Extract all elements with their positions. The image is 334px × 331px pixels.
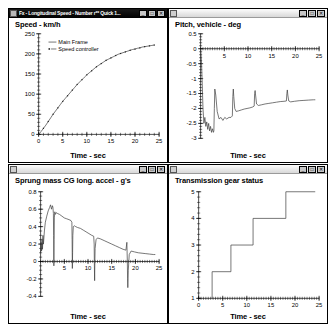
maximize-button[interactable]: □ xyxy=(308,10,316,17)
svg-text:2: 2 xyxy=(191,269,194,275)
svg-text:15: 15 xyxy=(268,53,275,59)
pitch-window-buttons: _ □ ✕ xyxy=(299,10,326,17)
svg-text:15: 15 xyxy=(268,302,275,308)
maximize-button[interactable]: □ xyxy=(148,10,156,17)
svg-text:0.6: 0.6 xyxy=(28,206,37,212)
svg-text:-2: -2 xyxy=(191,105,196,111)
svg-text:0: 0 xyxy=(37,138,41,144)
svg-text:0.5: 0.5 xyxy=(188,31,197,37)
svg-text:200: 200 xyxy=(25,51,36,57)
svg-text:25: 25 xyxy=(156,138,163,144)
accel-window-buttons: _ □ ✕ xyxy=(139,166,166,173)
svg-text:-0.5: -0.5 xyxy=(186,61,197,67)
svg-text:4: 4 xyxy=(191,215,195,221)
svg-text:-1.5: -1.5 xyxy=(186,90,197,96)
svg-text:25: 25 xyxy=(156,265,163,271)
svg-text:-0.2: -0.2 xyxy=(26,276,36,282)
svg-text:5: 5 xyxy=(61,138,65,144)
svg-text:5: 5 xyxy=(223,53,227,59)
svg-text:15: 15 xyxy=(108,138,115,144)
close-button[interactable]: ✕ xyxy=(157,166,165,173)
speed-window[interactable]: Fx - Longitudinal Speed - Number r** Qui… xyxy=(8,8,168,163)
speed-plot: 0510152025050100150200250Main FrameSpeed… xyxy=(9,18,167,162)
document-icon xyxy=(170,166,177,173)
accel-window-titlebar[interactable]: _ □ ✕ xyxy=(9,165,167,174)
minimize-button[interactable]: _ xyxy=(299,166,307,173)
svg-text:150: 150 xyxy=(25,71,36,77)
pitch-xlabel: Time - sec xyxy=(169,151,327,160)
gear-window-buttons: _ □ ✕ xyxy=(299,166,326,173)
svg-text:10: 10 xyxy=(85,265,92,271)
svg-text:-2.5: -2.5 xyxy=(186,120,197,126)
svg-text:Speed controller: Speed controller xyxy=(58,46,98,52)
svg-text:100: 100 xyxy=(25,91,36,97)
svg-text:1: 1 xyxy=(191,295,194,301)
svg-text:20: 20 xyxy=(132,138,139,144)
close-button[interactable]: ✕ xyxy=(317,10,325,17)
svg-text:250: 250 xyxy=(25,31,36,37)
svg-text:10: 10 xyxy=(84,138,91,144)
maximize-button[interactable]: □ xyxy=(308,166,316,173)
svg-text:-0.4: -0.4 xyxy=(26,293,37,299)
svg-text:10: 10 xyxy=(244,302,251,308)
svg-text:5: 5 xyxy=(221,302,225,308)
speed-window-buttons: _ □ ✕ xyxy=(139,10,166,17)
speed-xlabel: Time - sec xyxy=(9,151,167,160)
svg-text:0: 0 xyxy=(197,302,201,308)
gear-chart-body: Transmission gear status 051015202512345… xyxy=(169,174,327,323)
svg-text:3: 3 xyxy=(191,242,195,248)
svg-text:20: 20 xyxy=(292,302,299,308)
svg-text:50: 50 xyxy=(28,111,35,117)
svg-text:0: 0 xyxy=(193,46,197,52)
minimize-button[interactable]: _ xyxy=(139,166,147,173)
svg-text:25: 25 xyxy=(316,302,323,308)
close-button[interactable]: ✕ xyxy=(157,10,165,17)
pitch-chart-body: Pitch, vehicle - deg 5101520250.50-0.5-1… xyxy=(169,18,327,162)
accel-xlabel: Time - sec xyxy=(9,312,167,321)
document-icon xyxy=(170,10,177,17)
svg-text:Main Frame: Main Frame xyxy=(58,39,87,45)
svg-text:10: 10 xyxy=(245,53,252,59)
minimize-button[interactable]: _ xyxy=(299,10,307,17)
svg-text:20: 20 xyxy=(132,265,139,271)
svg-text:5: 5 xyxy=(191,189,195,195)
svg-text:0.8: 0.8 xyxy=(28,189,37,195)
accel-window[interactable]: _ □ ✕ Sprung mass CG long. accel - g's 5… xyxy=(8,164,168,324)
gear-window[interactable]: _ □ ✕ Transmission gear status 051015202… xyxy=(168,164,328,324)
gear-plot: 051015202512345 xyxy=(169,174,327,323)
pitch-plot: 5101520250.50-0.5-1-1.5-2-2.5-3 xyxy=(169,18,327,162)
svg-text:25: 25 xyxy=(316,53,323,59)
accel-plot: 5101520250.80.60.40.20-0.2-0.4 xyxy=(9,174,167,323)
accel-chart-body: Sprung mass CG long. accel - g's 5101520… xyxy=(9,174,167,323)
svg-text:0: 0 xyxy=(33,258,37,264)
speed-window-title: Fx - Longitudinal Speed - Number r** Qui… xyxy=(19,10,139,17)
gear-xlabel: Time - sec xyxy=(169,312,327,321)
desktop: Fx - Longitudinal Speed - Number r** Qui… xyxy=(0,0,334,331)
minimize-button[interactable]: _ xyxy=(139,10,147,17)
svg-text:0: 0 xyxy=(31,131,35,137)
svg-text:0.4: 0.4 xyxy=(28,224,37,230)
svg-text:20: 20 xyxy=(292,53,299,59)
maximize-button[interactable]: □ xyxy=(148,166,156,173)
close-button[interactable]: ✕ xyxy=(317,166,325,173)
pitch-window[interactable]: _ □ ✕ Pitch, vehicle - deg 5101520250.50… xyxy=(168,8,328,163)
svg-text:5: 5 xyxy=(63,265,67,271)
pitch-window-titlebar[interactable]: _ □ ✕ xyxy=(169,9,327,18)
document-icon xyxy=(10,166,17,173)
svg-text:-3: -3 xyxy=(191,135,197,141)
gear-window-titlebar[interactable]: _ □ ✕ xyxy=(169,165,327,174)
svg-text:0.2: 0.2 xyxy=(28,241,36,247)
speed-window-titlebar[interactable]: Fx - Longitudinal Speed - Number r** Qui… xyxy=(9,9,167,18)
document-icon xyxy=(10,10,17,17)
speed-chart-body: Speed - km/h 0510152025050100150200250Ma… xyxy=(9,18,167,162)
svg-text:15: 15 xyxy=(108,265,115,271)
svg-text:-1: -1 xyxy=(191,76,196,82)
